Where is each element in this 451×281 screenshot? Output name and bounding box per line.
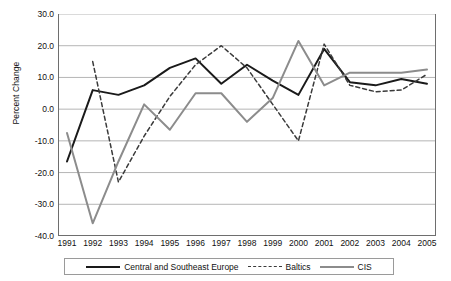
x-axis-tick-label: 2001 [315, 238, 334, 248]
x-axis-tick-label: 2005 [418, 238, 437, 248]
legend-item-label: Baltics [286, 262, 311, 272]
line-chart: Percent Change 30.020.010.00.0-10.0-20.0… [0, 0, 451, 281]
x-axis-tick-labels: 1991199219931994199519961997199819992000… [0, 238, 451, 252]
x-axis-tick-label: 1998 [238, 238, 257, 248]
y-axis-tick-label: 10.0 [37, 72, 54, 82]
x-axis-tick-label: 1996 [186, 238, 205, 248]
legend-swatch-line [86, 266, 120, 268]
x-axis-tick-label: 2000 [289, 238, 308, 248]
dashed-line-icon [248, 263, 282, 270]
x-axis-tick-label: 1993 [109, 238, 128, 248]
x-axis-tick-label: 1997 [212, 238, 231, 248]
series-baltics [93, 44, 427, 182]
x-axis-tick-label: 1992 [83, 238, 102, 248]
y-axis-tick-label: -10.0 [35, 136, 54, 146]
y-axis-tick-label: 20.0 [37, 41, 54, 51]
y-axis-tick-label: 30.0 [37, 9, 54, 19]
legend-swatch-line [248, 266, 282, 267]
x-axis-tick-label: 1994 [135, 238, 154, 248]
x-axis-tick-label: 1999 [263, 238, 282, 248]
y-axis-tick-label: 0.0 [42, 104, 54, 114]
plot-svg [58, 14, 436, 236]
x-axis-tick-label: 2004 [392, 238, 411, 248]
series-central-and-southeast-europe [67, 49, 427, 162]
y-axis-tick-label: -20.0 [35, 168, 54, 178]
legend-item-label: CIS [358, 262, 372, 272]
legend-item-label: Central and Southeast Europe [124, 262, 238, 272]
solid-black-line-icon [86, 263, 120, 270]
y-axis-tick-label: -30.0 [35, 199, 54, 209]
x-axis-tick-label: 2002 [340, 238, 359, 248]
solid-gray-line-icon [320, 263, 354, 270]
legend-item[interactable]: CIS [320, 262, 372, 272]
legend-item[interactable]: Central and Southeast Europe [86, 262, 238, 272]
x-axis-tick-label: 2003 [366, 238, 385, 248]
chart-legend: Central and Southeast EuropeBalticsCIS [64, 258, 394, 275]
plot-area [58, 14, 436, 236]
x-axis-tick-label: 1995 [160, 238, 179, 248]
legend-swatch-line [320, 266, 354, 268]
x-axis-tick-label: 1991 [58, 238, 77, 248]
legend-item[interactable]: Baltics [248, 262, 311, 272]
